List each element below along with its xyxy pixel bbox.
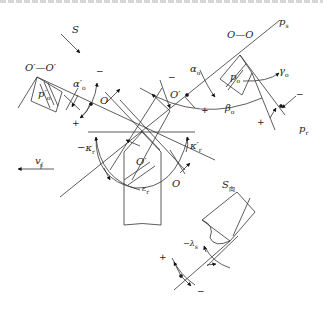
label-p-r: pr (299, 124, 308, 136)
diagram-lines (0, 0, 323, 312)
center-tool (124, 132, 161, 225)
label-alpha-o: αo (190, 64, 200, 76)
label-kappa-r: −κr (77, 143, 95, 155)
sign-minus-mid: − (168, 73, 176, 82)
sign-plus-left: + (72, 119, 80, 128)
s-direction-arrow (61, 34, 80, 53)
label-gamma-o: γo (279, 66, 289, 78)
label-s-view: S向 (222, 180, 235, 192)
label-o-left: O (100, 96, 108, 106)
sign-plus-bottom: + (159, 253, 167, 262)
label-o-prime-center: O′ (136, 157, 146, 167)
label-o-prime-mid: O′ (170, 90, 180, 100)
sign-minus-right: − (296, 90, 304, 99)
label-p-o-prime: p′o (38, 89, 50, 101)
main-plane-line (60, 20, 280, 197)
sign-plus-mid: + (201, 106, 209, 115)
label-section-right: O—O (227, 30, 253, 40)
label-alpha-o-prime: α′o (73, 79, 86, 91)
label-beta-o: βo (225, 103, 234, 115)
label-kappa-r-prime: κ′r (190, 141, 202, 153)
label-v-f: vf (35, 156, 43, 168)
label-s: S (72, 25, 79, 35)
label-epsilon-r: εr (142, 185, 149, 195)
label-section-left: O′—O′ (25, 63, 56, 73)
view-tool (202, 192, 255, 241)
label-lambda-s: −λs (183, 240, 198, 250)
sign-minus-left: − (96, 67, 104, 76)
label-p-o: po (230, 72, 240, 84)
label-p-s: ps (279, 17, 289, 29)
tool-angle-diagram: S O′—O′ α′o p′o O O′ O—O αo po ps γo βo … (0, 0, 323, 312)
sign-plus-right: + (257, 118, 265, 127)
label-o-bottom: O (172, 179, 180, 189)
sign-minus-bottom: − (197, 287, 205, 296)
